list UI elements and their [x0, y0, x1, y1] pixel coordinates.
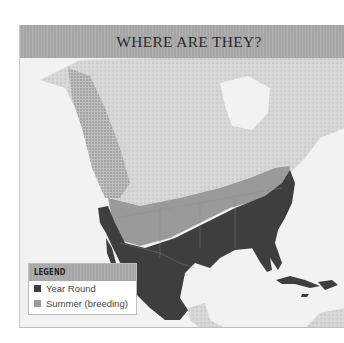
jamaica: [301, 294, 309, 297]
central-america: [188, 303, 225, 328]
legend-label: Year Round: [46, 283, 96, 294]
legend-item-summer-breeding: Summer (breeding): [29, 296, 136, 311]
legend-title: LEGEND: [34, 268, 66, 277]
panel-header: WHERE ARE THEY?: [20, 25, 344, 58]
cuba: [276, 276, 320, 288]
legend-item-year-round: Year Round: [29, 281, 136, 296]
range-map-panel: WHERE ARE THEY?: [19, 25, 344, 328]
hispaniola: [318, 280, 338, 290]
map-legend: LEGEND Year Round Summer (breeding): [28, 263, 137, 315]
legend-label: Summer (breeding): [46, 298, 128, 309]
legend-header: LEGEND: [29, 264, 136, 281]
year-round-swatch: [34, 285, 41, 292]
south-america: [305, 308, 344, 328]
page-title: WHERE ARE THEY?: [116, 33, 261, 51]
summer-breeding-swatch: [34, 300, 41, 307]
